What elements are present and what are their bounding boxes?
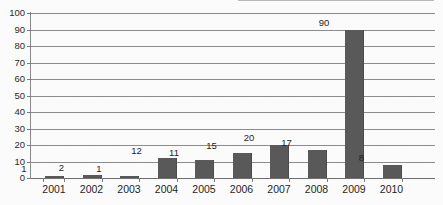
- x-axis-tick: [252, 178, 253, 182]
- bar-value-label: 20: [231, 133, 267, 143]
- y-axis-tick: [27, 79, 31, 80]
- x-axis-tick: [43, 178, 44, 182]
- y-axis-tick-label: 30: [0, 124, 25, 134]
- y-axis-tick: [27, 178, 31, 179]
- bar-value-label: 90: [306, 18, 342, 28]
- x-axis-tick: [177, 178, 178, 182]
- bar-value-label: 12: [119, 146, 155, 156]
- x-axis-category-label: 2002: [72, 183, 112, 195]
- bar-value-label: 17: [269, 138, 305, 148]
- y-axis-tick: [27, 13, 31, 14]
- y-axis-tick: [27, 96, 31, 97]
- x-axis-tick: [102, 178, 103, 182]
- x-axis-category-label: 2007: [259, 183, 299, 195]
- y-axis-tick-label: 20: [0, 140, 25, 150]
- x-axis-tick: [139, 178, 140, 182]
- bar-value-label: 15: [194, 141, 230, 151]
- x-axis-category-label: 2009: [334, 183, 374, 195]
- y-axis-tick-label: 0: [0, 173, 25, 183]
- x-axis-tick: [214, 178, 215, 182]
- x-axis-tick: [64, 178, 65, 182]
- bar: [270, 145, 289, 178]
- x-axis-category-label: 2008: [297, 183, 337, 195]
- y-axis-tick: [27, 112, 31, 113]
- y-axis-tick-label: 70: [0, 58, 25, 68]
- bar-value-label: 1: [6, 164, 42, 174]
- y-axis-tick-label: 60: [0, 74, 25, 84]
- x-axis-category-label: 2010: [372, 183, 412, 195]
- bar-value-label: 11: [156, 148, 192, 158]
- y-axis-tick-label: 50: [0, 91, 25, 101]
- y-axis-tick: [27, 46, 31, 47]
- x-axis-category-label: 2003: [109, 183, 149, 195]
- x-axis-category-label: 2006: [222, 183, 262, 195]
- bar-chart: 0102030405060708090100 20012002200320042…: [0, 0, 443, 205]
- y-axis-tick-label: 40: [0, 107, 25, 117]
- y-axis-tick: [27, 129, 31, 130]
- y-axis-tick-label: 100: [0, 8, 25, 18]
- bar: [120, 176, 139, 178]
- bar: [195, 160, 214, 178]
- x-axis-tick: [402, 178, 403, 182]
- bar-value-label: 8: [344, 153, 380, 163]
- bar: [158, 158, 177, 178]
- bar-value-label: 2: [44, 163, 80, 173]
- y-axis-tick: [27, 162, 31, 163]
- y-axis-tick: [27, 145, 31, 146]
- x-axis-category-label: 2001: [34, 183, 74, 195]
- bar: [233, 153, 252, 178]
- gridline: [30, 178, 435, 179]
- bar: [383, 165, 402, 178]
- x-axis-category-label: 2005: [184, 183, 224, 195]
- y-axis-tick: [27, 30, 31, 31]
- bar: [83, 175, 102, 178]
- x-axis-tick: [364, 178, 365, 182]
- x-axis-tick: [289, 178, 290, 182]
- scan-artifact-line: [238, 0, 434, 1]
- y-axis-tick-label: 80: [0, 41, 25, 51]
- y-axis-tick-label: 90: [0, 25, 25, 35]
- bar: [308, 150, 327, 178]
- bar-value-label: 1: [81, 164, 117, 174]
- bar: [45, 176, 64, 178]
- x-axis-tick: [327, 178, 328, 182]
- y-axis-tick: [27, 63, 31, 64]
- x-axis-category-label: 2004: [147, 183, 187, 195]
